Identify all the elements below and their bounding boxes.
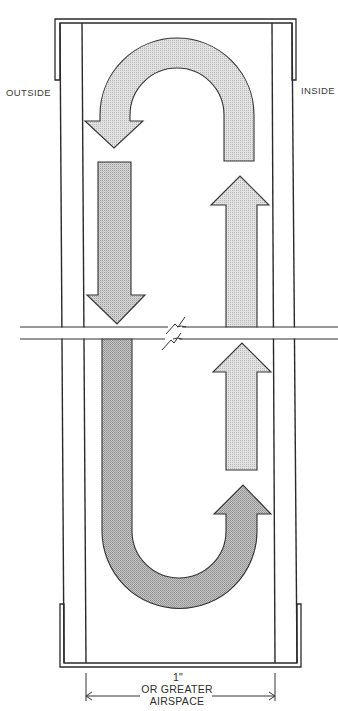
dimension-line2: AIRSPACE <box>150 695 205 707</box>
outside-panel-outer-line <box>60 23 64 663</box>
outside-label: OUTSIDE <box>6 87 51 98</box>
dimension-value: 1" <box>173 671 183 683</box>
down-arrow-upper <box>87 162 145 324</box>
top-u-turn-arrow <box>85 38 254 161</box>
up-arrow-lower <box>213 343 271 470</box>
outside-panel-inner-line <box>82 23 86 663</box>
bottom-channel <box>60 604 301 667</box>
inside-label: INSIDE <box>301 85 335 96</box>
inside-panel-inner-line <box>272 23 275 663</box>
inside-panel-outer-line <box>292 23 297 663</box>
airspace-dimension: 1" OR GREATER AIRSPACE <box>86 671 275 707</box>
dimension-line1: OR GREATER <box>141 683 213 695</box>
wall-airspace-diagram: OUTSIDE INSIDE 1" OR GREATER AIRSPACE <box>0 0 338 711</box>
up-arrow-upper <box>211 176 269 330</box>
